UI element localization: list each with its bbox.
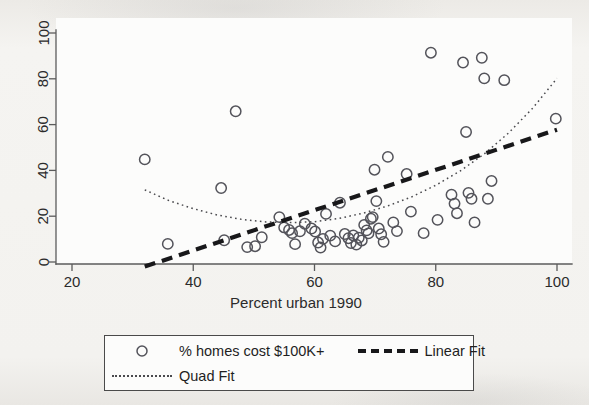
y-tick-label: 80 [35, 70, 52, 87]
data-point [406, 206, 416, 216]
x-tick-label: 20 [64, 273, 81, 290]
legend-label-series: % homes cost $100K+ [179, 343, 325, 359]
data-point [230, 106, 240, 116]
y-tick-label: 0 [35, 258, 52, 266]
x-tick-label: 60 [306, 273, 323, 290]
data-point [551, 113, 561, 123]
y-axis-ticks [49, 33, 56, 262]
x-axis-title: Percent urban 1990 [230, 294, 362, 311]
data-point [477, 53, 487, 63]
data-point [290, 239, 300, 249]
legend-key-quad [105, 375, 179, 377]
data-point [418, 228, 428, 238]
data-point [483, 194, 493, 204]
data-point [140, 154, 150, 164]
chart-page: 020406080100 20406080100 Percent urban 1… [0, 0, 589, 405]
data-point [321, 209, 331, 219]
data-point [383, 152, 393, 162]
data-point [461, 127, 471, 137]
data-point [449, 198, 459, 208]
legend-label-quad: Quad Fit [179, 368, 235, 384]
data-point [371, 196, 381, 206]
data-point [463, 188, 473, 198]
data-point [250, 241, 260, 251]
legend-key-marker [105, 343, 179, 359]
legend-key-linear [351, 349, 425, 353]
dashed-line-icon [358, 349, 418, 353]
legend-row-primary: % homes cost $100K+ Linear Fit [105, 339, 473, 363]
x-tick-label: 80 [427, 273, 444, 290]
dotted-line-icon [112, 375, 172, 377]
data-point [479, 73, 489, 83]
y-tick-label: 60 [35, 116, 52, 133]
data-point [363, 228, 373, 238]
legend-row-secondary: Quad Fit [105, 364, 473, 388]
data-point [452, 208, 462, 218]
data-point [469, 217, 479, 227]
data-point [499, 75, 509, 85]
x-tick-label: 40 [185, 273, 202, 290]
data-point [257, 232, 267, 242]
data-point [466, 194, 476, 204]
open-circle-icon [134, 343, 150, 359]
data-point [426, 47, 436, 57]
data-point [163, 239, 173, 249]
data-point [392, 226, 402, 236]
y-tick-label: 40 [35, 162, 52, 179]
data-point [432, 215, 442, 225]
data-point [216, 183, 226, 193]
y-tick-label: 100 [35, 20, 52, 45]
data-points-group [140, 47, 561, 252]
data-point [458, 57, 468, 67]
y-tick-label: 20 [35, 208, 52, 225]
data-point [369, 165, 379, 175]
legend-label-linear: Linear Fit [425, 343, 485, 359]
data-point [486, 176, 496, 186]
x-axis-tick-labels: 20406080100 [64, 273, 570, 290]
y-axis-tick-labels: 020406080100 [35, 20, 52, 266]
chart-legend: % homes cost $100K+ Linear Fit Quad Fit [104, 335, 474, 391]
x-tick-label: 100 [544, 273, 569, 290]
